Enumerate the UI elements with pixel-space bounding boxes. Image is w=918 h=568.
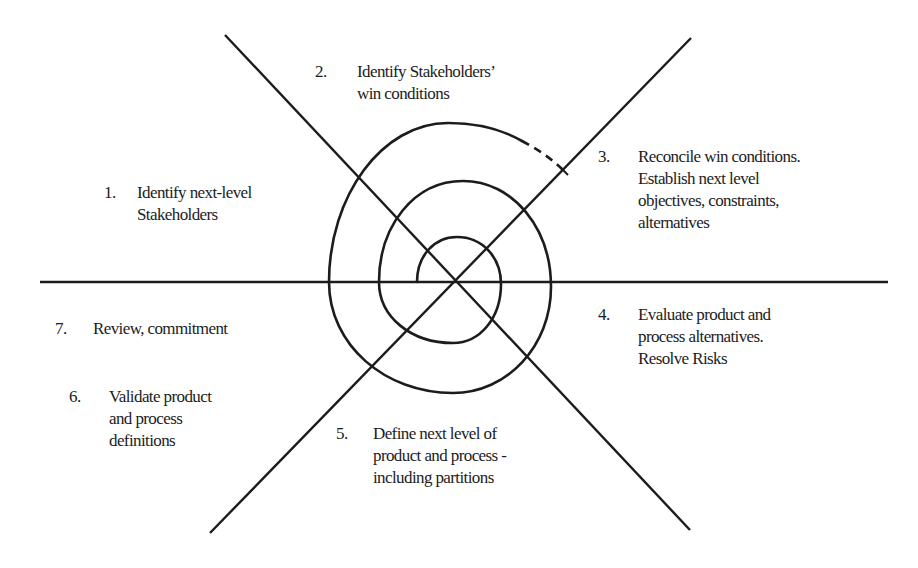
step-text-line: Establish next level [638,168,800,190]
step-1-label: 1. Identify next-level Stakeholders [104,182,252,226]
step-text-line: product and process - [373,445,506,467]
step-6-label: 6. Validate product and process definiti… [69,386,211,452]
step-5-label: 5. Define next level of product and proc… [336,423,506,489]
step-text-line: alternatives [638,212,800,234]
step-number: 4. [598,304,610,326]
step-number: 3. [598,146,610,168]
step-text-line: Identify Stakeholders’ [357,61,495,83]
step-text-line: Reconcile win conditions. [638,146,800,168]
step-text-line: Resolve Risks [638,348,770,370]
spiral-dashed-continuation [522,141,563,170]
step-text-line: objectives, constraints, [638,190,800,212]
step-3-label: 3. Reconcile win conditions. Establish n… [598,146,800,234]
step-text-line: Validate product [109,386,211,408]
step-number: 6. [69,386,81,408]
step-number: 1. [104,182,116,204]
step-text-line: Stakeholders [137,204,252,226]
step-text-line: Review, commitment [93,318,227,340]
step-text-line: Evaluate product and [638,304,770,326]
step-7-label: 7. Review, commitment [55,318,227,340]
step-text-line: including partitions [373,467,506,489]
step-4-label: 4. Evaluate product and process alternat… [598,304,770,370]
step-text-line: definitions [109,430,211,452]
step-2-label: 2. Identify Stakeholders’ win conditions [315,61,495,105]
step-text-line: process alternatives. [638,326,770,348]
step-number: 7. [55,318,67,340]
step-text-line: Define next level of [373,423,506,445]
step-number: 5. [336,423,348,445]
step-text-line: win conditions [357,83,495,105]
spiral-curve [329,123,551,393]
step-text-line: and process [109,408,211,430]
step-text-line: Identify next-level [137,182,252,204]
step-number: 2. [315,61,327,83]
